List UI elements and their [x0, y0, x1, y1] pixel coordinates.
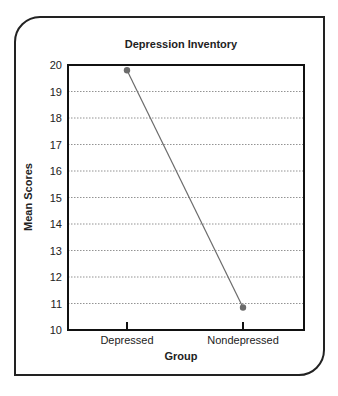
data-series: [124, 67, 246, 311]
gridlines: [68, 92, 304, 304]
y-tick-label: 14: [50, 218, 62, 230]
y-axis-label: Mean Scores: [22, 163, 34, 231]
y-tick-label: 19: [50, 86, 62, 98]
y-tick-label: 16: [50, 165, 62, 177]
data-point: [124, 67, 130, 73]
x-tick-label: Nondepressed: [207, 334, 279, 346]
x-axis-ticks: DepressedNondepressed: [100, 322, 278, 346]
data-point: [240, 304, 246, 310]
y-tick-label: 18: [50, 112, 62, 124]
y-tick-label: 11: [51, 298, 62, 310]
series-line: [127, 70, 243, 307]
x-axis-label: Group: [165, 350, 198, 362]
line-chart: Depression Inventory 1011121314151617181…: [0, 0, 338, 396]
x-tick-label: Depressed: [100, 334, 153, 346]
y-axis-ticks: 1011121314151617181920: [50, 59, 62, 336]
y-tick-label: 15: [50, 192, 62, 204]
y-tick-label: 20: [50, 59, 62, 71]
y-tick-label: 10: [50, 324, 62, 336]
y-tick-label: 12: [50, 271, 62, 283]
y-tick-label: 13: [50, 245, 62, 257]
chart-title: Depression Inventory: [125, 38, 238, 50]
y-tick-label: 17: [50, 139, 62, 151]
